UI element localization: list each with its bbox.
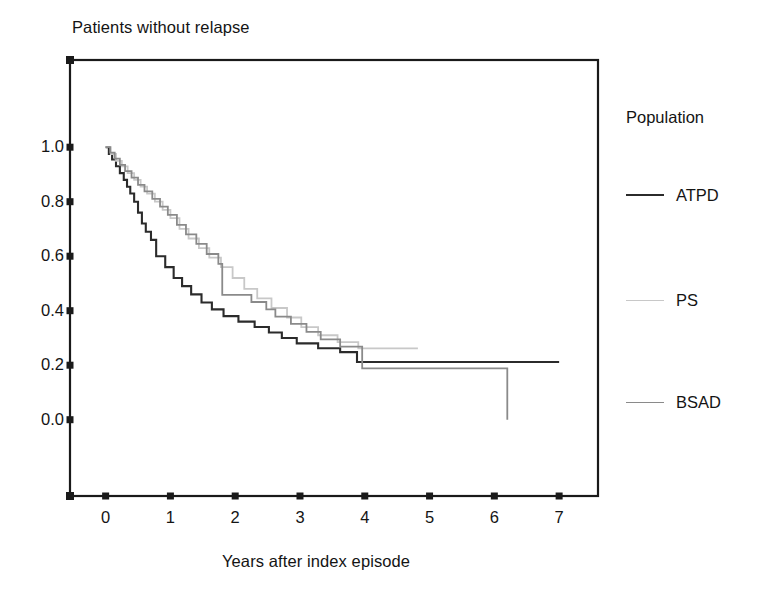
x-tick-label: 6: [479, 508, 509, 527]
x-tick-label: 2: [220, 508, 250, 527]
x-tick-label: 4: [350, 508, 380, 527]
legend-entry-ps[interactable]: PS: [626, 290, 698, 310]
legend-label: BSAD: [676, 393, 721, 412]
legend-title: Population: [626, 108, 704, 127]
series-line-bsad: [106, 147, 508, 420]
legend-label: ATPD: [676, 186, 719, 205]
chart-figure: Patients without relapse 0.00.20.40.60.8…: [0, 0, 760, 599]
legend-swatch-ps-icon: [626, 300, 664, 301]
legend-entry-bsad[interactable]: BSAD: [626, 392, 721, 412]
legend-label: PS: [676, 291, 698, 310]
plot-frame: [70, 60, 598, 496]
y-tick-label: 0.8: [20, 192, 64, 211]
x-tick-label: 7: [544, 508, 574, 527]
y-tick-label: 1.0: [20, 137, 64, 156]
legend-swatch-atpd-icon: [626, 194, 664, 196]
y-tick-label: 0.0: [20, 410, 64, 429]
y-tick-label: 0.2: [20, 355, 64, 374]
x-tick-label: 3: [285, 508, 315, 527]
y-tick-label: 0.4: [20, 301, 64, 320]
legend-entry-atpd[interactable]: ATPD: [626, 185, 719, 205]
x-axis-label: Years after index episode: [222, 552, 410, 571]
x-tick-label: 5: [415, 508, 445, 527]
legend-swatch-bsad-icon: [626, 402, 664, 403]
series-line-ps: [106, 147, 418, 348]
x-tick-label: 0: [91, 508, 121, 527]
series-line-atpd: [106, 147, 560, 362]
y-tick-label: 0.6: [20, 246, 64, 265]
x-tick-label: 1: [155, 508, 185, 527]
data-series-group: [106, 147, 560, 420]
axis-ticks: [66, 56, 563, 500]
